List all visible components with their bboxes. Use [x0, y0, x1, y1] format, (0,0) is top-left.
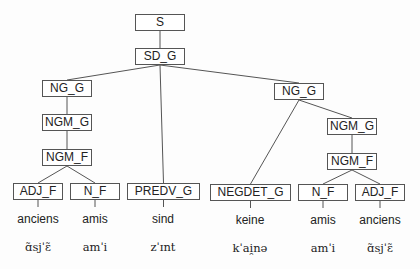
word-keine: keine [210, 213, 290, 227]
node-negdet-g: NEGDET_G [210, 184, 291, 201]
edge-sd_g-predv_g [160, 65, 164, 183]
node-ngm-f-left: NGM_F [42, 149, 92, 166]
edge-ngm_f_left-adj_f_left [38, 166, 67, 183]
node-n-f-left: N_F [70, 183, 120, 200]
node-adj-f-left: ADJ_F [13, 183, 63, 200]
node-s: S [135, 14, 185, 31]
edge-ng_g_right-ngm_g_right [299, 100, 352, 118]
node-ng-g-left: NG_G [42, 80, 92, 97]
word-sind: sind [123, 212, 203, 226]
edge-ngm_f_right-n_f_right [323, 170, 352, 184]
node-ngm-f-right: NGM_F [327, 153, 377, 170]
edge-sd_g-ng_g_left [67, 65, 160, 80]
node-n-f-right: N_F [298, 184, 348, 201]
edge-ngm_f_left-n_f_left [67, 166, 95, 183]
node-ngm-g-right: NGM_G [327, 118, 377, 135]
node-ngm-g-left: NGM_G [42, 114, 92, 131]
edge-sd_g-ng_g_right [160, 65, 299, 83]
ipa-keine: kˈai̯nə [210, 241, 290, 255]
word-anciens-2: anciens [340, 213, 420, 227]
edge-ng_g_right-negdet_g [251, 100, 300, 184]
node-ng-g-right: NG_G [274, 83, 324, 100]
edge-ngm_f_right-adj_f_right [352, 170, 380, 184]
ipa-anciens-2: ɑ̃sjˈɛ̃ [340, 241, 420, 255]
syntax-tree-diagram: S SD_G NG_G NGM_G NGM_F ADJ_F N_F PREDV_… [0, 0, 420, 269]
node-sd-g: SD_G [135, 48, 185, 65]
ipa-sind: zˈɪnt [123, 240, 203, 254]
node-predv-g: PREDV_G [127, 183, 200, 200]
node-adj-f-right: ADJ_F [355, 184, 405, 201]
